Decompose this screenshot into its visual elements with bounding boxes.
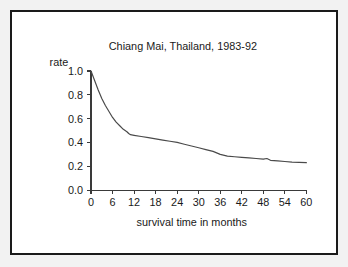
screenshot-root: Chiang Mai, Thailand, 1983-92 rate survi… bbox=[0, 0, 348, 267]
y-tick-label: 0.2 bbox=[68, 160, 83, 172]
data-series-group bbox=[91, 71, 306, 163]
x-tick-label: 42 bbox=[236, 196, 248, 208]
x-axis: 06121824303642485460 bbox=[88, 190, 312, 208]
x-tick-label: 6 bbox=[110, 196, 116, 208]
y-tick-label: 0.6 bbox=[68, 113, 83, 125]
x-tick-label: 0 bbox=[88, 196, 94, 208]
x-tick-label: 24 bbox=[171, 196, 183, 208]
x-tick-label: 18 bbox=[150, 196, 162, 208]
x-axis-label: survival time in months bbox=[137, 216, 248, 228]
x-tick-label: 48 bbox=[257, 196, 269, 208]
y-tick-label: 1.0 bbox=[68, 65, 83, 77]
y-axis: 0.00.20.40.60.81.0 bbox=[68, 65, 91, 196]
y-tick-label: 0.0 bbox=[68, 184, 83, 196]
x-tick-label: 54 bbox=[279, 196, 291, 208]
chart-title: Chiang Mai, Thailand, 1983-92 bbox=[109, 40, 257, 52]
survival-curve-chart: Chiang Mai, Thailand, 1983-92 rate survi… bbox=[12, 12, 336, 253]
chart-canvas: Chiang Mai, Thailand, 1983-92 rate survi… bbox=[12, 12, 336, 253]
survival-curve-line bbox=[91, 71, 306, 163]
x-tick-label: 12 bbox=[128, 196, 140, 208]
y-axis-label: rate bbox=[50, 56, 69, 68]
x-tick-label: 60 bbox=[300, 196, 312, 208]
x-tick-label: 36 bbox=[214, 196, 226, 208]
x-tick-label: 30 bbox=[193, 196, 205, 208]
figure-frame: Chiang Mai, Thailand, 1983-92 rate survi… bbox=[10, 10, 338, 255]
y-tick-label: 0.4 bbox=[68, 136, 83, 148]
y-tick-label: 0.8 bbox=[68, 89, 83, 101]
